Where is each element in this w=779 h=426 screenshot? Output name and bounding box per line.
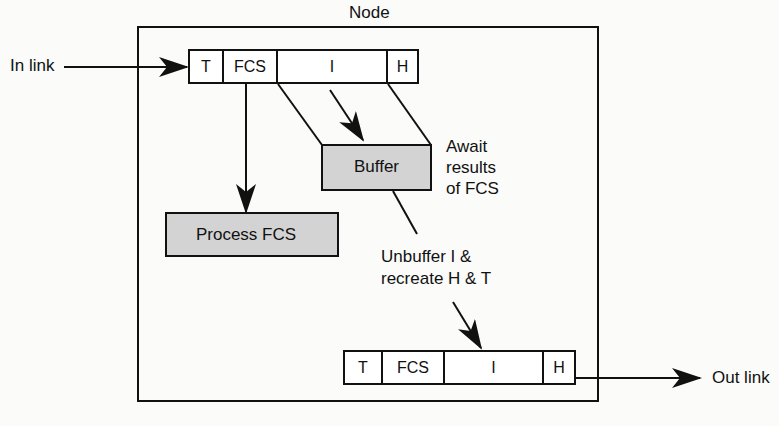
output-field-h: H: [543, 351, 575, 384]
unbuffer-note-line-2: recreate H & T: [381, 268, 491, 290]
process-fcs-label: Process FCS: [166, 225, 326, 245]
buffer-release-line: [393, 191, 417, 234]
output-field-fcs: FCS: [382, 351, 444, 384]
input-field-t: T: [189, 50, 223, 83]
into-buffer-arrow: [330, 90, 363, 140]
await-note: Await results of FCS: [446, 136, 499, 199]
unbuffer-arrow: [453, 302, 481, 348]
input-field-fcs: FCS: [223, 50, 277, 83]
unbuffer-note-line-1: Unbuffer I &: [381, 246, 491, 268]
node-title: Node: [349, 3, 390, 23]
in-link-label: In link: [10, 56, 54, 76]
buffer-funnel-left: [278, 84, 322, 145]
output-field-i: I: [444, 351, 543, 384]
out-link-label: Out link: [712, 368, 770, 388]
await-note-line-1: Await: [446, 136, 499, 157]
input-field-i: I: [277, 50, 387, 83]
unbuffer-note: Unbuffer I & recreate H & T: [381, 246, 491, 290]
input-field-h: H: [387, 50, 418, 83]
buffer-label: Buffer: [322, 157, 431, 177]
await-note-line-2: results: [446, 157, 499, 178]
output-field-t: T: [344, 351, 382, 384]
buffer-funnel-right: [388, 84, 431, 145]
await-note-line-3: of FCS: [446, 178, 499, 199]
